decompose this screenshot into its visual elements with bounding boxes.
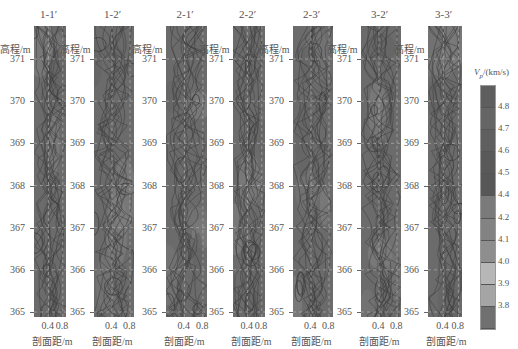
y-tick-mark [30, 270, 34, 271]
contour-panel [293, 26, 333, 317]
y-tick-label: 369 [404, 137, 419, 148]
contour-panel [361, 26, 401, 317]
y-tick-mark [229, 270, 233, 271]
y-tick-mark [90, 312, 94, 313]
y-tick-mark [357, 228, 361, 229]
y-tick-label: 370 [10, 95, 25, 106]
colorbar-tick-label: 4.4 [498, 189, 509, 199]
y-tick-label: 366 [142, 264, 157, 275]
y-tick-mark [30, 312, 34, 313]
y-tick-label: 371 [10, 53, 25, 64]
colorbar [480, 85, 496, 330]
colorbar-tick-label: 3.8 [498, 300, 509, 310]
y-tick-label: 370 [209, 95, 224, 106]
colorbar-band [481, 86, 495, 108]
y-tick-label: 367 [142, 222, 157, 233]
panel-title: 1-1′ [40, 8, 57, 20]
x-axis-label: 剖面距/m [32, 333, 73, 348]
contour-panel [34, 26, 66, 317]
y-tick-mark [289, 186, 293, 187]
panel-title: 3-2′ [371, 8, 388, 20]
y-tick-mark [30, 143, 34, 144]
contour-panel [94, 26, 134, 317]
y-tick-mark [424, 312, 428, 313]
y-tick-mark [357, 101, 361, 102]
y-tick-mark [90, 101, 94, 102]
y-tick-label: 371 [269, 53, 284, 64]
x-tick-label: 0.8 [123, 320, 136, 331]
y-tick-label: 367 [337, 222, 352, 233]
y-tick-mark [90, 59, 94, 60]
colorbar-band [481, 241, 495, 263]
y-tick-mark [30, 59, 34, 60]
y-tick-mark [289, 312, 293, 313]
y-tick-label: 365 [269, 306, 284, 317]
y-tick-label: 367 [209, 222, 224, 233]
colorbar-band [481, 130, 495, 152]
y-tick-label: 368 [209, 180, 224, 191]
colorbar-band [481, 307, 495, 329]
y-tick-label: 365 [404, 306, 419, 317]
y-tick-label: 366 [209, 264, 224, 275]
x-tick-label: 0.4 [41, 320, 54, 331]
y-tick-mark [162, 228, 166, 229]
y-tick-label: 371 [209, 53, 224, 64]
y-tick-mark [289, 270, 293, 271]
y-tick-mark [424, 101, 428, 102]
y-tick-label: 365 [337, 306, 352, 317]
y-tick-label: 366 [10, 264, 25, 275]
x-axis-label: 剖面距/m [426, 333, 467, 348]
y-tick-mark [424, 228, 428, 229]
x-axis-label: 剖面距/m [231, 333, 272, 348]
y-tick-label: 371 [142, 53, 157, 64]
y-tick-label: 367 [269, 222, 284, 233]
y-tick-mark [162, 101, 166, 102]
contour-panel [166, 26, 207, 317]
y-tick-mark [289, 101, 293, 102]
y-tick-mark [30, 228, 34, 229]
y-tick-label: 367 [70, 222, 85, 233]
y-tick-mark [424, 186, 428, 187]
x-axis-label: 剖面距/m [359, 333, 400, 348]
colorbar-tick-label: 4.5 [498, 167, 509, 177]
colorbar-tick-label: 4.7 [498, 123, 509, 133]
y-tick-label: 365 [142, 306, 157, 317]
y-tick-label: 365 [10, 306, 25, 317]
colorbar-title: Vp/(km/s) [474, 67, 509, 80]
y-tick-label: 371 [337, 53, 352, 64]
x-tick-label: 0.8 [196, 320, 209, 331]
colorbar-band [481, 108, 495, 130]
y-tick-mark [90, 186, 94, 187]
y-tick-label: 368 [404, 180, 419, 191]
y-tick-label: 365 [70, 306, 85, 317]
y-tick-label: 369 [10, 137, 25, 148]
y-tick-mark [162, 59, 166, 60]
x-tick-label: 0.4 [240, 320, 253, 331]
y-tick-label: 370 [142, 95, 157, 106]
y-tick-mark [357, 186, 361, 187]
y-tick-label: 367 [10, 222, 25, 233]
y-tick-mark [229, 101, 233, 102]
contour-panel [233, 26, 265, 317]
colorbar-band [481, 174, 495, 196]
x-tick-label: 0.8 [390, 320, 403, 331]
y-tick-mark [289, 59, 293, 60]
y-tick-mark [357, 312, 361, 313]
panel-title: 2-2′ [239, 8, 256, 20]
y-tick-mark [162, 143, 166, 144]
y-tick-label: 371 [404, 53, 419, 64]
y-tick-label: 369 [142, 137, 157, 148]
colorbar-band [481, 196, 495, 218]
y-tick-label: 370 [404, 95, 419, 106]
y-tick-mark [424, 59, 428, 60]
y-tick-mark [90, 228, 94, 229]
panel-title: 2-1′ [177, 8, 194, 20]
y-tick-label: 368 [10, 180, 25, 191]
panel-title: 2-3′ [303, 8, 320, 20]
y-tick-label: 370 [70, 95, 85, 106]
y-tick-mark [229, 186, 233, 187]
x-tick-label: 0.4 [177, 320, 190, 331]
y-tick-label: 368 [70, 180, 85, 191]
y-tick-mark [357, 143, 361, 144]
y-tick-mark [90, 143, 94, 144]
